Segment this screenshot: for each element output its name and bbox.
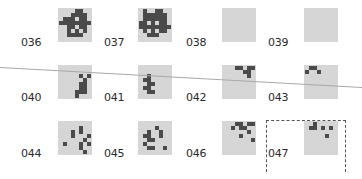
sprite-pixel: [83, 29, 87, 33]
sprite-tile-046[interactable]: [222, 121, 256, 155]
sprite-pixel: [317, 70, 321, 74]
sprite-tile-047[interactable]: [304, 121, 338, 155]
sprite-pixel: [247, 130, 251, 134]
sprite-pixel: [325, 134, 329, 138]
tile-label-039: 039: [268, 37, 288, 48]
sprite-pixel: [87, 21, 91, 25]
sprite-pixel: [251, 66, 255, 70]
sprite-pixel: [155, 33, 159, 37]
sprite-tile-036[interactable]: [58, 8, 92, 42]
sprite-pixel: [239, 134, 243, 138]
sprite-pixel: [321, 126, 325, 130]
tile-label-047: 047: [268, 148, 288, 159]
sprite-pixel: [251, 138, 255, 142]
sprite-pixel: [87, 142, 91, 146]
sprite-tile-037[interactable]: [138, 8, 172, 42]
tile-label-040: 040: [21, 92, 41, 103]
sprite-tile-040[interactable]: [58, 65, 92, 99]
sprite-tile-grid: 036037038039040041042043044045046047: [0, 0, 362, 179]
tile-label-037: 037: [104, 37, 124, 48]
tile-label-044: 044: [21, 148, 41, 159]
sprite-tile-038[interactable]: [222, 8, 256, 42]
tile-label-038: 038: [186, 37, 206, 48]
sprite-pixel: [63, 142, 67, 146]
sprite-pixel: [151, 146, 155, 150]
tile-label-043: 043: [268, 92, 288, 103]
sprite-pixel: [151, 138, 155, 142]
sprite-pixel: [151, 82, 155, 86]
sprite-pixel: [159, 134, 163, 138]
sprite-pixel: [83, 90, 87, 94]
sprite-tile-044[interactable]: [58, 121, 92, 155]
sprite-pixel: [71, 134, 75, 138]
sprite-pixel: [247, 74, 251, 78]
sprite-pixel: [83, 150, 87, 154]
tile-label-046: 046: [186, 148, 206, 159]
sprite-pixel: [79, 33, 83, 37]
sprite-pixel: [79, 130, 83, 134]
tile-label-041: 041: [104, 92, 124, 103]
tile-label-036: 036: [21, 37, 41, 48]
sprite-pixel: [163, 29, 167, 33]
tile-label-042: 042: [186, 92, 206, 103]
sprite-pixel: [313, 126, 317, 130]
sprite-tile-041[interactable]: [138, 65, 172, 99]
sprite-tile-043[interactable]: [304, 65, 338, 99]
tile-label-045: 045: [104, 148, 124, 159]
sprite-pixel: [87, 74, 91, 78]
sprite-pixel: [75, 94, 79, 98]
sprite-pixel: [87, 134, 91, 138]
sprite-pixel: [167, 25, 171, 29]
sprite-pixel: [163, 146, 167, 150]
sprite-tile-039[interactable]: [304, 8, 338, 42]
sprite-tile-045[interactable]: [138, 121, 172, 155]
sprite-pixel: [231, 126, 235, 130]
sprite-pixel: [305, 70, 309, 74]
sprite-pixel: [251, 122, 255, 126]
sprite-pixel: [151, 90, 155, 94]
sprite-pixel: [329, 126, 333, 130]
sprite-tile-042[interactable]: [222, 65, 256, 99]
